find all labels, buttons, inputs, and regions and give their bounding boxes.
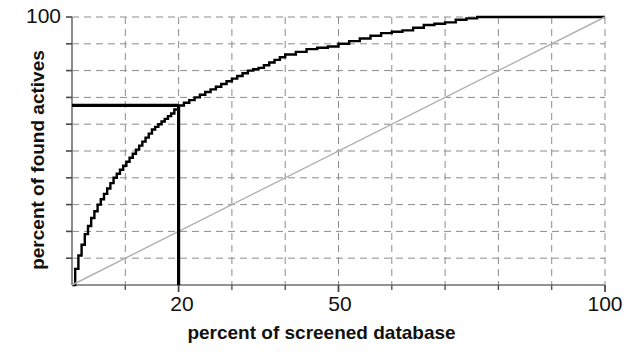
chart-figure: percent of found actives 100 20 50 100 p… [0,0,643,354]
x-axis-title: percent of screened database [0,322,643,344]
x-tick-label-100: 100 [577,292,633,316]
x-tick-label-50: 50 [315,292,365,316]
y-tick-label-100: 100 [26,4,61,28]
x-tick-label-20: 20 [157,292,207,316]
